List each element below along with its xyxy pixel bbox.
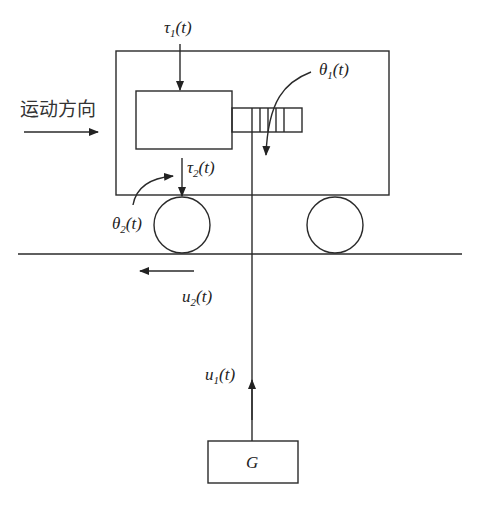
u1-label: u1(t) [205,365,235,386]
theta2-label: θ2(t) [112,214,142,235]
overhead-crane-diagram: 运动方向 τ1(t) θ1(t) τ2(t) θ2(t) u2(t) u1(t)… [0,0,477,509]
right-wheel [307,197,363,253]
drum-reel [232,108,302,132]
tau1-label: τ1(t) [164,18,192,39]
theta1-arrow [266,72,311,155]
motor-box [136,91,232,149]
motion-direction-label: 运动方向 [20,98,96,120]
payload-label: G [246,453,258,472]
left-wheel [154,197,210,253]
theta1-label: θ1(t) [319,60,349,81]
u2-label: u2(t) [182,287,212,308]
tau2-label: τ2(t) [187,158,215,179]
